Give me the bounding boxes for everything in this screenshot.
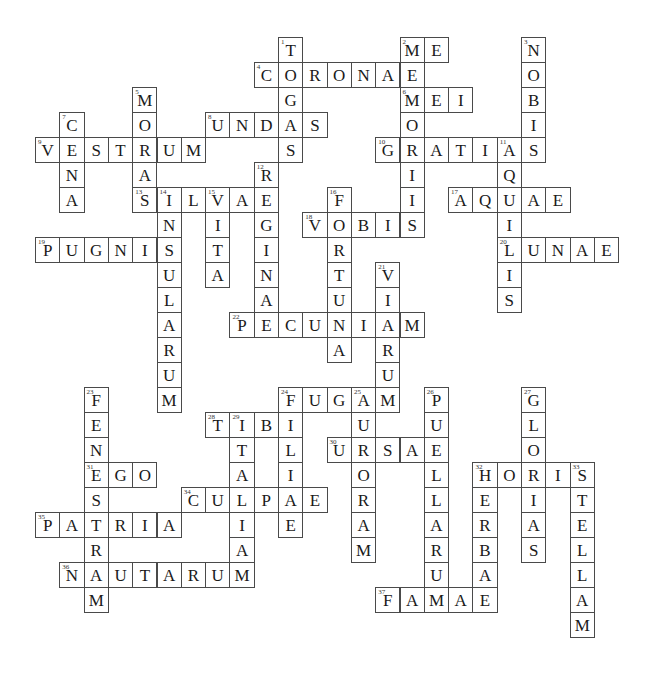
crossword-cell[interactable]: A [448, 587, 473, 613]
crossword-cell[interactable]: I [278, 462, 303, 488]
crossword-cell[interactable]: L [181, 187, 206, 213]
crossword-cell[interactable]: O [132, 112, 157, 138]
crossword-cell[interactable]: I [521, 112, 546, 138]
crossword-cell[interactable]: R [108, 512, 133, 538]
crossword-cell[interactable]: S [278, 137, 303, 163]
crossword-cell[interactable]: 34C [181, 487, 206, 513]
crossword-cell[interactable]: T [84, 512, 109, 538]
crossword-cell[interactable]: 14I [157, 187, 182, 213]
crossword-cell[interactable]: A [424, 512, 449, 538]
crossword-cell[interactable]: I [545, 462, 570, 488]
crossword-cell[interactable]: 27G [521, 387, 546, 413]
crossword-cell[interactable]: R [351, 487, 376, 513]
crossword-cell[interactable]: U [375, 362, 400, 388]
crossword-cell[interactable]: M [229, 562, 254, 588]
crossword-cell[interactable]: 30U [327, 437, 352, 463]
crossword-cell[interactable]: L [278, 437, 303, 463]
crossword-cell[interactable]: M [181, 137, 206, 163]
crossword-cell[interactable]: 1T [278, 37, 303, 63]
crossword-cell[interactable]: O [521, 437, 546, 463]
crossword-cell[interactable]: R [84, 537, 109, 563]
crossword-cell[interactable]: I [229, 512, 254, 538]
crossword-cell[interactable]: 22P [229, 312, 254, 338]
crossword-cell[interactable]: 12R [254, 162, 279, 188]
crossword-cell[interactable]: I [278, 412, 303, 438]
crossword-cell[interactable]: A [375, 312, 400, 338]
crossword-cell[interactable]: O [327, 212, 352, 238]
crossword-cell[interactable]: 26P [424, 387, 449, 413]
crossword-cell[interactable]: A [229, 537, 254, 563]
crossword-cell[interactable]: M [157, 387, 182, 413]
crossword-cell[interactable]: R [424, 537, 449, 563]
crossword-cell[interactable]: T [570, 487, 595, 513]
crossword-cell[interactable]: U [351, 412, 376, 438]
crossword-cell[interactable]: S [400, 212, 425, 238]
crossword-cell[interactable]: 19P [35, 237, 60, 263]
crossword-cell[interactable]: 10G [375, 137, 400, 163]
crossword-cell[interactable]: A [132, 162, 157, 188]
crossword-cell[interactable]: A [400, 437, 425, 463]
crossword-cell[interactable]: 29I [229, 412, 254, 438]
crossword-cell[interactable]: I [497, 212, 522, 238]
crossword-cell[interactable]: 11A [497, 137, 522, 163]
crossword-cell[interactable]: 24F [278, 387, 303, 413]
crossword-cell[interactable]: S [497, 287, 522, 313]
crossword-cell[interactable]: P [254, 487, 279, 513]
crossword-cell[interactable]: E [278, 512, 303, 538]
crossword-cell[interactable]: U [497, 187, 522, 213]
crossword-cell[interactable]: A [424, 137, 449, 163]
crossword-cell[interactable]: L [570, 537, 595, 563]
crossword-cell[interactable]: L [570, 562, 595, 588]
crossword-cell[interactable]: I [351, 312, 376, 338]
crossword-cell[interactable]: A [375, 62, 400, 88]
crossword-cell[interactable]: M [84, 587, 109, 613]
crossword-cell[interactable]: B [351, 212, 376, 238]
crossword-cell[interactable]: A [59, 187, 84, 213]
crossword-cell[interactable]: N [327, 312, 352, 338]
crossword-cell[interactable]: 6M [400, 87, 425, 113]
crossword-cell[interactable]: C [278, 312, 303, 338]
crossword-cell[interactable]: U [205, 487, 230, 513]
crossword-cell[interactable]: U [521, 237, 546, 263]
crossword-cell[interactable]: E [545, 187, 570, 213]
crossword-cell[interactable]: 32H [472, 462, 497, 488]
crossword-cell[interactable]: M [570, 612, 595, 638]
crossword-cell[interactable]: L [521, 412, 546, 438]
crossword-cell[interactable]: 25A [351, 387, 376, 413]
crossword-cell[interactable]: A [254, 287, 279, 313]
crossword-cell[interactable]: O [327, 62, 352, 88]
crossword-cell[interactable]: S [521, 137, 546, 163]
crossword-cell[interactable]: E [254, 312, 279, 338]
crossword-cell[interactable]: E [472, 487, 497, 513]
crossword-cell[interactable]: E [472, 587, 497, 613]
crossword-cell[interactable]: 4C [254, 62, 279, 88]
crossword-cell[interactable]: 21V [375, 262, 400, 288]
crossword-cell[interactable]: S [84, 137, 109, 163]
crossword-cell[interactable]: G [108, 462, 133, 488]
crossword-cell[interactable]: A [229, 187, 254, 213]
crossword-cell[interactable]: R [521, 462, 546, 488]
crossword-cell[interactable]: T [448, 137, 473, 163]
crossword-cell[interactable]: R [327, 237, 352, 263]
crossword-cell[interactable]: A [351, 512, 376, 538]
crossword-cell[interactable]: S [375, 437, 400, 463]
crossword-cell[interactable]: E [254, 187, 279, 213]
crossword-cell[interactable]: N [351, 62, 376, 88]
crossword-cell[interactable]: A [84, 562, 109, 588]
crossword-cell[interactable]: L [157, 287, 182, 313]
crossword-cell[interactable]: A [59, 512, 84, 538]
crossword-cell[interactable]: A [521, 512, 546, 538]
crossword-cell[interactable]: L [424, 487, 449, 513]
crossword-cell[interactable]: D [254, 112, 279, 138]
crossword-cell[interactable]: L [229, 487, 254, 513]
crossword-cell[interactable]: N [59, 162, 84, 188]
crossword-cell[interactable]: I [497, 262, 522, 288]
crossword-cell[interactable]: 16F [327, 187, 352, 213]
crossword-cell[interactable]: O [400, 112, 425, 138]
crossword-cell[interactable]: A [278, 112, 303, 138]
crossword-cell[interactable]: R [351, 437, 376, 463]
crossword-cell[interactable]: A [327, 337, 352, 363]
crossword-cell[interactable]: A [157, 562, 182, 588]
crossword-cell[interactable]: O [278, 62, 303, 88]
crossword-cell[interactable]: A [472, 562, 497, 588]
